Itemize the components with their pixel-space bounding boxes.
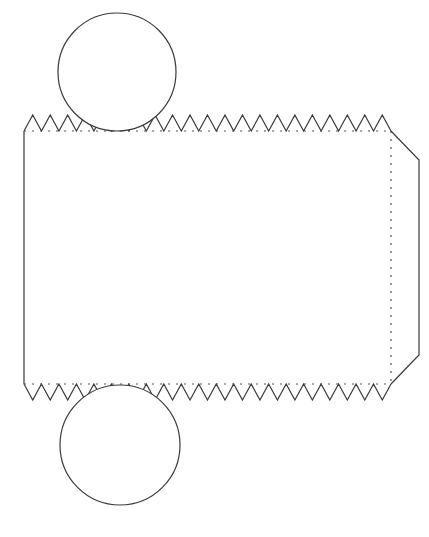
bottom-teeth-zigzag <box>24 384 391 400</box>
side-glue-flap <box>391 131 419 384</box>
bottom-glue-teeth <box>24 384 391 400</box>
top-circle-face <box>58 13 176 131</box>
bottom-circle-face <box>60 385 180 505</box>
cylinder-net-diagram <box>0 0 429 537</box>
